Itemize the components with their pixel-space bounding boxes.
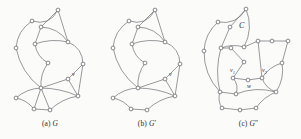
graph-vertex <box>220 106 224 110</box>
graph-edge <box>78 64 83 96</box>
graph-vertex <box>242 45 246 49</box>
graph-edge <box>276 63 283 92</box>
graph-vertex <box>246 78 250 82</box>
subfigure-c: v1v2w C (c) G″ <box>196 0 301 139</box>
graph-b-canvas: v <box>97 0 197 120</box>
graph-vertex <box>66 40 70 44</box>
caption-a-symbol: G <box>53 119 59 128</box>
graph-vertex <box>202 49 206 53</box>
graph-b-nodes <box>111 8 182 112</box>
graph-vertex <box>129 107 133 111</box>
graph-a-vertex-labels: v <box>72 71 75 77</box>
graph-vertex <box>130 42 134 46</box>
graph-a-nodes <box>14 8 85 112</box>
graph-edge <box>32 10 58 22</box>
graph-edge <box>256 92 276 108</box>
graph-edge <box>204 22 218 51</box>
figure-container: v (a) G v (b) G′ v1v2w C (c) G″ <box>0 0 301 139</box>
graph-vertex <box>173 94 177 98</box>
graph-vertex <box>242 60 246 64</box>
graph-edge <box>138 63 145 88</box>
graph-edge <box>231 48 244 62</box>
graph-vertex <box>56 8 60 12</box>
subfigure-a: v (a) G <box>0 0 100 139</box>
graph-vertex <box>274 90 278 94</box>
graph-edge <box>138 88 175 96</box>
graph-vertex <box>39 25 43 29</box>
graph-vertex <box>111 46 115 50</box>
graph-vertex <box>219 46 223 50</box>
graph-vertex <box>286 39 290 43</box>
caption-a-text: (a) <box>42 119 51 128</box>
graph-vertex <box>218 90 222 94</box>
graph-edge <box>138 10 155 27</box>
graph-edge <box>147 96 175 110</box>
graph-vertex <box>254 106 258 110</box>
caption-b-text: (b) <box>138 119 147 128</box>
graph-edge <box>41 88 78 96</box>
graph-edge <box>244 9 250 47</box>
graph-vertex <box>163 77 167 81</box>
vertex-label: v1 <box>230 67 235 75</box>
graph-edge <box>113 48 138 88</box>
caption-b-prime: ′ <box>154 119 156 128</box>
graph-edge <box>68 79 78 96</box>
graph-edge <box>165 42 180 64</box>
graph-vertex <box>143 61 147 65</box>
graph-vertex <box>48 108 52 112</box>
graph-edge <box>155 10 165 42</box>
graph-c-region-labels: C <box>239 21 245 30</box>
graph-edge <box>41 63 48 88</box>
graph-edge <box>113 21 129 48</box>
graph-edge <box>113 88 138 98</box>
graph-b-edges <box>113 10 180 110</box>
caption-b: (b) G′ <box>97 119 197 128</box>
graph-edge <box>58 10 68 42</box>
graph-vertex <box>127 19 131 23</box>
graph-vertex <box>229 46 233 50</box>
graph-edge <box>175 64 180 96</box>
graph-edge <box>41 10 58 27</box>
graph-b-vertex-labels: v <box>169 71 172 77</box>
graph-vertex <box>216 20 220 24</box>
graph-vertex <box>244 7 248 11</box>
graph-vertex <box>111 96 115 100</box>
graph-vertex <box>136 25 140 29</box>
graph-c-canvas: v1v2w C <box>196 0 301 120</box>
graph-edge <box>50 96 78 110</box>
graph-vertex <box>39 86 43 90</box>
graph-edge <box>282 41 288 63</box>
graph-vertex <box>270 39 274 43</box>
graph-vertex <box>238 108 242 112</box>
graph-edge <box>41 79 68 88</box>
vertex-label: v <box>169 71 172 77</box>
graph-edge <box>233 78 248 80</box>
caption-c-text: (c) <box>239 119 248 128</box>
graph-vertex <box>163 40 167 44</box>
vertex-label: w <box>247 83 251 89</box>
graph-vertex <box>46 61 50 65</box>
graph-vertex <box>280 61 284 65</box>
graph-edge <box>132 27 138 44</box>
graph-edge <box>240 108 256 110</box>
graph-vertex <box>260 76 264 80</box>
graph-edge <box>219 92 222 108</box>
graph-vertex <box>145 108 149 112</box>
graph-edge <box>41 88 50 110</box>
graph-edge <box>16 48 41 88</box>
graph-c-edges <box>204 9 288 110</box>
graph-vertex <box>256 39 260 43</box>
graph-vertex <box>14 96 18 100</box>
graph-vertex <box>234 92 238 96</box>
graph-edge <box>131 109 147 110</box>
graph-edge <box>233 78 237 94</box>
graph-edge <box>132 44 145 63</box>
graph-edge <box>35 44 48 63</box>
graph-vertex <box>76 94 80 98</box>
vertex-label: v2 <box>262 67 267 75</box>
graph-edge <box>132 40 165 44</box>
graph-c-nodes <box>202 7 290 112</box>
graph-edge <box>16 88 41 98</box>
graph-vertex <box>136 86 140 90</box>
graph-edge <box>16 21 32 48</box>
